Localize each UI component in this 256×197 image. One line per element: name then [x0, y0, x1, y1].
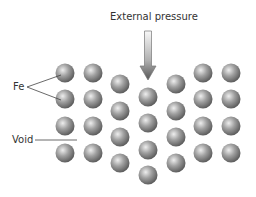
fe-atom-sphere [139, 114, 158, 133]
fe-atom-sphere [222, 90, 241, 109]
fe-atom-sphere [167, 75, 186, 94]
fe-atom-sphere [111, 102, 130, 121]
fe-atom-sphere [139, 88, 158, 107]
fe-leader-lines [27, 75, 61, 100]
fe-label: Fe [13, 82, 24, 92]
fe-atom-sphere [194, 144, 213, 163]
fe-atom-sphere [222, 117, 241, 136]
pressure-arrow-icon [140, 31, 156, 80]
fe-atom-sphere [84, 144, 103, 163]
diagram-canvas [0, 0, 256, 197]
fe-atom-sphere [194, 90, 213, 109]
fe-atom-sphere [194, 64, 213, 83]
fe-atoms [56, 64, 241, 185]
fe-atom-sphere [111, 154, 130, 173]
fe-atom-sphere [167, 102, 186, 121]
fe-atom-sphere [56, 117, 75, 136]
fe-atom-sphere [84, 64, 103, 83]
fe-atom-sphere [139, 166, 158, 185]
fe-atom-sphere [56, 144, 75, 163]
fe-atom-sphere [111, 75, 130, 94]
fe-atom-sphere [84, 90, 103, 109]
fe-atom-sphere [167, 128, 186, 147]
pressure-label: External pressure [110, 12, 198, 22]
fe-atom-sphere [56, 64, 75, 83]
fe-atom-sphere [194, 117, 213, 136]
fe-atom-sphere [222, 144, 241, 163]
void-label: Void [12, 135, 33, 145]
fe-atom-sphere [139, 141, 158, 160]
fe-atom-sphere [222, 64, 241, 83]
fe-atom-sphere [111, 128, 130, 147]
fe-atom-sphere [84, 117, 103, 136]
fe-atom-sphere [167, 154, 186, 173]
